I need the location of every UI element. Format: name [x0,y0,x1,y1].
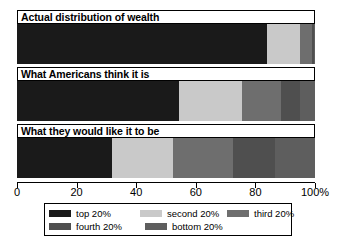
x-axis-tick-label: 80 [249,186,261,198]
legend-item: second 20% [140,208,227,219]
bar-group-label: What they would like it to be [17,124,315,138]
bar-segment [314,24,315,64]
bar-group-think: What Americans think it is [17,67,315,121]
legend-item: bottom 20% [145,221,237,232]
legend-row: top 20%second 20%third 20% [49,207,287,220]
bar-segment [17,24,267,64]
bar-group-would-like: What they would like it to be [17,124,315,178]
legend-label: bottom 20% [172,221,223,232]
legend-item: third 20% [227,208,287,219]
bar-segment [179,81,242,121]
stacked-bar [17,81,315,121]
stacked-bar [17,24,315,64]
x-axis-tick-label: 20 [70,186,82,198]
legend-item: top 20% [49,208,140,219]
legend-label: top 20% [76,208,111,219]
bar-segment [267,24,300,64]
legend-swatch-icon [227,210,249,217]
legend: top 20%second 20%third 20% fourth 20%bot… [44,203,292,236]
legend-row: fourth 20%bottom 20% [49,220,287,233]
bar-segment [173,138,233,178]
legend-swatch-icon [49,210,71,217]
bar-segment [300,24,312,64]
legend-item: fourth 20% [49,221,145,232]
bar-segment [233,138,275,178]
bar-segment [112,138,173,178]
stacked-bar [17,138,315,178]
bar-group-label: Actual distribution of wealth [17,10,315,24]
legend-swatch-icon [49,223,71,230]
x-axis-tick-label: 100% [301,186,329,198]
x-axis-tick-label: 60 [190,186,202,198]
bar-segment [242,81,281,121]
x-axis-tick-label: 0 [14,186,20,198]
legend-swatch-icon [145,223,167,230]
x-axis-tick-labels: 020406080100% [0,186,337,200]
wealth-distribution-chart: Actual distribution of wealth What Ameri… [0,0,337,242]
legend-label: third 20% [254,208,294,219]
legend-swatch-icon [140,210,162,217]
legend-label: fourth 20% [76,221,122,232]
bar-segment [17,81,179,121]
bar-segment [281,81,300,121]
bar-group-actual: Actual distribution of wealth [17,10,315,64]
bar-segment [17,138,112,178]
bar-segment [275,138,315,178]
bar-group-label: What Americans think it is [17,67,315,81]
plot-area: Actual distribution of wealth What Ameri… [17,10,315,182]
legend-label: second 20% [167,208,219,219]
x-axis-tick-label: 40 [130,186,142,198]
bar-segment [300,81,315,121]
